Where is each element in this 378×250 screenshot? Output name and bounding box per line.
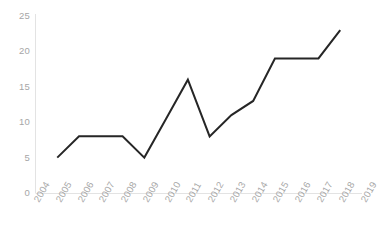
x-axis-tick-label: 2006 — [76, 180, 95, 204]
x-axis-tick-label: 2015 — [271, 180, 290, 204]
x-axis-tick-label: 2019 — [359, 180, 378, 204]
x-axis-tick-label: 2005 — [54, 180, 73, 204]
x-axis-tick-label: 2010 — [163, 180, 182, 204]
x-axis-tick-label: 2017 — [315, 180, 334, 204]
x-axis-tick-label: 2012 — [206, 180, 225, 204]
x-axis-tick-label: 2013 — [228, 180, 247, 204]
x-axis-tick-label: 2009 — [141, 180, 160, 204]
x-axis-tick-label: 2016 — [293, 180, 312, 204]
x-axis-tick-label: 2008 — [119, 180, 138, 204]
x-axis-tick-label: 2004 — [32, 180, 51, 204]
x-axis-tick-label: 2007 — [97, 180, 116, 204]
x-axis-tick-label: 2018 — [337, 180, 356, 204]
x-axis-tick-label: 2011 — [184, 181, 203, 204]
x-axis-tick-label: 2014 — [250, 180, 269, 204]
